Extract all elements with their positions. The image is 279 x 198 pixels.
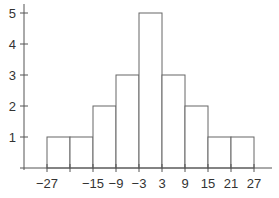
histogram-bar [116, 75, 139, 168]
histogram-bar [185, 106, 208, 168]
histogram-chart: 12345 −27−15−9−339152127 [0, 0, 279, 198]
histogram-bar [70, 137, 93, 168]
histogram-bar [208, 137, 231, 168]
x-tick-label: 3 [158, 176, 165, 191]
x-tick-label: −27 [36, 176, 58, 191]
histogram-bar [162, 75, 185, 168]
y-tick-label: 4 [9, 37, 16, 52]
histogram-bar [47, 137, 70, 168]
y-tick-label: 3 [9, 68, 16, 83]
x-tick-label: −9 [109, 176, 124, 191]
histogram-bar [139, 13, 162, 168]
y-tick-label: 5 [9, 6, 16, 21]
y-ticks: 12345 [9, 6, 28, 145]
histogram-bar [93, 106, 116, 168]
x-tick-label: 9 [181, 176, 188, 191]
y-tick-label: 2 [9, 99, 16, 114]
x-tick-label: −3 [132, 176, 147, 191]
histogram-bars [47, 13, 254, 168]
x-tick-label: −15 [82, 176, 104, 191]
histogram-bar [231, 137, 254, 168]
y-tick-label: 1 [9, 130, 16, 145]
x-tick-label: 15 [201, 176, 215, 191]
x-tick-label: 27 [247, 176, 261, 191]
x-tick-label: 21 [224, 176, 238, 191]
